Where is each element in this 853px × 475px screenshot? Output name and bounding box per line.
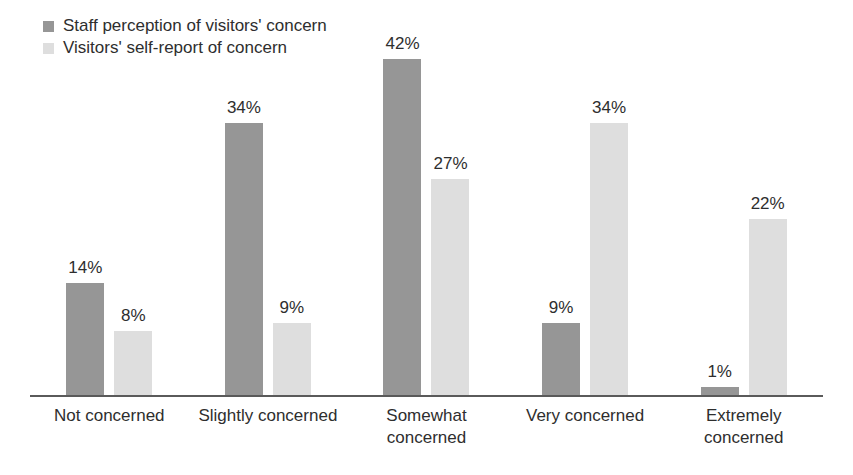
bar-rect xyxy=(701,387,739,395)
bar-group: 1%22% xyxy=(664,194,823,395)
category-labels: Not concernedSlightly concernedSomewhatc… xyxy=(30,405,823,449)
category-label: Somewhatconcerned xyxy=(347,405,506,449)
bar-value-label: 8% xyxy=(121,306,146,326)
bar-value-label: 1% xyxy=(707,362,732,382)
bar-visitors: 22% xyxy=(749,194,787,395)
bar-rect xyxy=(542,323,580,395)
bar-value-label: 9% xyxy=(549,298,574,318)
bar-rect xyxy=(225,123,263,395)
bar-group: 14%8% xyxy=(30,258,189,395)
plot-area: 14%8%34%9%42%27%9%34%1%22% xyxy=(30,0,823,395)
bar-staff: 14% xyxy=(66,258,104,395)
bar-rect xyxy=(749,219,787,395)
category-label: Not concerned xyxy=(30,405,189,449)
bar-visitors: 27% xyxy=(431,154,469,395)
bar-group: 9%34% xyxy=(506,98,665,395)
x-axis-line xyxy=(30,395,823,397)
bar-rect xyxy=(383,59,421,395)
bar-staff: 34% xyxy=(225,98,263,395)
bar-visitors: 34% xyxy=(590,98,628,395)
bar-value-label: 27% xyxy=(433,154,467,174)
bar-visitors: 9% xyxy=(273,298,311,395)
bar-value-label: 42% xyxy=(385,34,419,54)
bar-group: 34%9% xyxy=(189,98,348,395)
bar-visitors: 8% xyxy=(114,306,152,395)
bar-staff: 9% xyxy=(542,298,580,395)
bar-rect xyxy=(114,331,152,395)
category-label: Slightly concerned xyxy=(189,405,348,449)
bar-staff: 1% xyxy=(701,362,739,395)
bar-value-label: 34% xyxy=(227,98,261,118)
category-label: Extremelyconcerned xyxy=(664,405,823,449)
bar-value-label: 34% xyxy=(592,98,626,118)
bar-chart-figure: Staff perception of visitors' concernVis… xyxy=(0,0,853,475)
bar-value-label: 22% xyxy=(751,194,785,214)
bar-rect xyxy=(66,283,104,395)
bar-rect xyxy=(273,323,311,395)
category-label: Very concerned xyxy=(506,405,665,449)
bar-rect xyxy=(431,179,469,395)
bar-group: 42%27% xyxy=(347,34,506,395)
bar-value-label: 14% xyxy=(68,258,102,278)
bar-value-label: 9% xyxy=(280,298,305,318)
bar-rect xyxy=(590,123,628,395)
bar-staff: 42% xyxy=(383,34,421,395)
